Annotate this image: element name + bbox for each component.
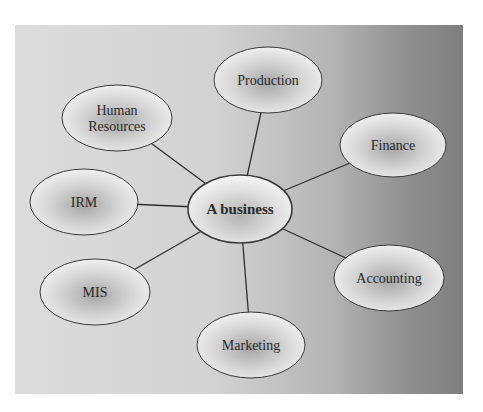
ellipse-human-resources [62, 85, 172, 151]
node-business: A business [188, 175, 292, 243]
label-finance: Finance [371, 138, 415, 153]
business-functions-diagram: ProductionHumanResourcesFinanceIRMMISAcc… [0, 0, 483, 412]
node-mis: MIS [40, 259, 150, 325]
label-human-resources: Resources [88, 119, 146, 134]
label-production: Production [237, 73, 298, 88]
node-finance: Finance [340, 113, 446, 177]
node-production: Production [214, 47, 322, 113]
node-irm: IRM [30, 169, 138, 235]
label-marketing: Marketing [222, 338, 280, 353]
node-human-resources: HumanResources [62, 85, 172, 151]
node-marketing: Marketing [197, 312, 305, 378]
label-accounting: Accounting [356, 271, 421, 286]
label-mis: MIS [83, 285, 108, 300]
node-accounting: Accounting [334, 245, 444, 311]
label-business: A business [206, 201, 273, 217]
label-irm: IRM [71, 195, 98, 210]
label-human-resources: Human [96, 103, 137, 118]
